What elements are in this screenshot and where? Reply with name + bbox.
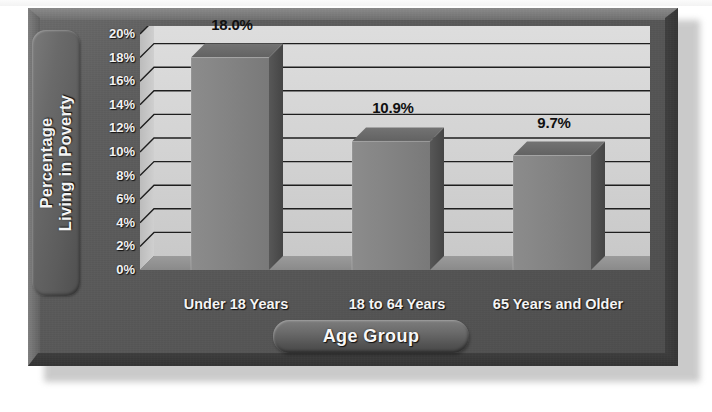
- y-axis-tick-label: 4%: [116, 215, 135, 230]
- bar-value-label: 18.0%: [211, 16, 253, 33]
- plot-svg: [140, 26, 660, 292]
- y-axis-tick-label: 8%: [116, 168, 135, 183]
- bar-side-face: [591, 142, 605, 270]
- y-axis-tick-label: 14%: [109, 97, 135, 112]
- x-axis-category-label: 65 Years and Older: [493, 296, 623, 312]
- y-axis-title: Percentage Living in Poverty: [37, 95, 75, 231]
- bar-group-0: [191, 44, 283, 270]
- y-axis-tick-label: 16%: [109, 73, 135, 88]
- bar-value-label: 9.7%: [537, 114, 570, 131]
- x-axis-category-label: 18 to 64 Years: [349, 296, 445, 312]
- plot-left-wall: [140, 26, 154, 270]
- bar-side-face: [430, 127, 444, 270]
- bar-group-2: [513, 142, 605, 270]
- y-axis-tick-label: 2%: [116, 238, 135, 253]
- x-axis-category-labels: Under 18 Years18 to 64 Years65 Years and…: [140, 296, 670, 320]
- chart-frame: Percentage Living in Poverty 20%18%16%14…: [28, 8, 678, 366]
- x-axis-title: Age Group: [323, 326, 420, 347]
- bar-side-face: [269, 44, 283, 270]
- y-axis-tick-label: 6%: [116, 191, 135, 206]
- y-axis-tick-label: 0%: [116, 262, 135, 277]
- y-axis-tick-labels: 20%18%16%14%12%10%8%6%4%2%0%: [86, 26, 135, 292]
- chart-page: Percentage Living in Poverty 20%18%16%14…: [0, 0, 712, 412]
- x-axis-category-label: Under 18 Years: [184, 296, 289, 312]
- frame-top-bevel: [28, 8, 678, 20]
- y-axis-title-line-1: Percentage: [37, 95, 56, 231]
- bar-top-face: [352, 127, 444, 141]
- x-axis-title-pill: Age Group: [273, 320, 469, 353]
- y-axis-tick-label: 18%: [109, 50, 135, 65]
- y-axis-title-pill: Percentage Living in Poverty: [32, 30, 80, 296]
- bar-front-face: [352, 141, 430, 270]
- y-axis-tick-label: 10%: [109, 144, 135, 159]
- bar-front-face: [513, 156, 591, 270]
- bar-front-face: [191, 58, 269, 270]
- y-axis-tick-label: 20%: [109, 26, 135, 41]
- bar-value-label: 10.9%: [372, 99, 414, 116]
- bar-top-face: [513, 142, 605, 156]
- bar-group-1: [352, 127, 444, 270]
- scan-artifact-strip: [0, 0, 712, 6]
- frame-bottom-bevel: [28, 353, 678, 366]
- y-axis-title-line-2: Living in Poverty: [56, 95, 75, 231]
- y-axis-tick-label: 12%: [109, 120, 135, 135]
- plot-area: 18.0%10.9%9.7%: [140, 26, 660, 292]
- bar-top-face: [191, 44, 283, 58]
